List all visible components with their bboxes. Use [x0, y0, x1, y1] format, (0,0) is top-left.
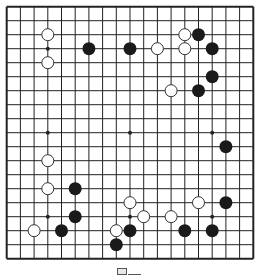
black-stone[interactable]: [82, 42, 95, 55]
caption-underline: [128, 274, 141, 275]
white-stone[interactable]: [193, 197, 205, 209]
black-stone[interactable]: [124, 224, 137, 237]
black-stone[interactable]: [55, 224, 68, 237]
star-point: [210, 215, 214, 219]
black-stone[interactable]: [69, 210, 82, 223]
black-stone[interactable]: [206, 224, 219, 237]
black-stone[interactable]: [206, 42, 219, 55]
black-stone[interactable]: [178, 224, 191, 237]
black-stone[interactable]: [192, 84, 205, 97]
star-point: [128, 131, 132, 135]
white-stone[interactable]: [42, 155, 54, 167]
star-point: [128, 215, 132, 219]
white-stone[interactable]: [42, 29, 54, 41]
star-point: [210, 131, 214, 135]
black-stone[interactable]: [219, 140, 232, 153]
white-stone[interactable]: [42, 57, 54, 69]
white-stone[interactable]: [110, 225, 122, 237]
white-stone[interactable]: [124, 197, 136, 209]
white-stone[interactable]: [165, 211, 177, 223]
star-point: [46, 215, 50, 219]
star-point: [46, 131, 50, 135]
black-stone[interactable]: [69, 182, 82, 195]
black-stone[interactable]: [206, 70, 219, 83]
diagram-caption: [117, 266, 141, 275]
black-stone[interactable]: [219, 196, 232, 209]
black-stone[interactable]: [110, 238, 123, 251]
go-board[interactable]: [0, 0, 256, 262]
white-stone[interactable]: [28, 225, 40, 237]
white-stone[interactable]: [138, 211, 150, 223]
white-stone[interactable]: [165, 85, 177, 97]
white-stone[interactable]: [42, 183, 54, 195]
white-stone[interactable]: [151, 43, 163, 55]
black-stone[interactable]: [124, 42, 137, 55]
star-point: [46, 47, 50, 51]
diagram-label-icon: [117, 268, 127, 275]
white-stone[interactable]: [179, 29, 191, 41]
black-stone[interactable]: [192, 28, 205, 41]
white-stone[interactable]: [179, 43, 191, 55]
